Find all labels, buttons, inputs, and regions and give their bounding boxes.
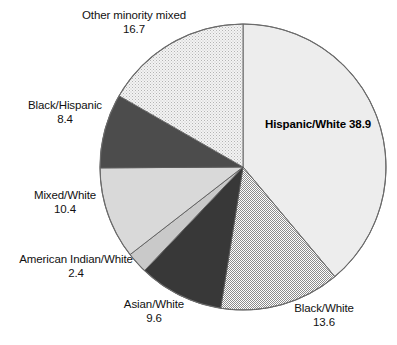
pie-chart-canvas: [0, 0, 397, 345]
pie-chart-figure: Hispanic/White 38.9 Black/White 13.6 Asi…: [0, 0, 397, 345]
slice-label-american-indian-white-text: American Indian/White: [2, 252, 150, 266]
slice-value-asian-white: 9.6: [96, 311, 212, 325]
slice-label-black-white-text: Black/White: [268, 301, 380, 315]
slice-value-mixed-white: 10.4: [6, 202, 124, 216]
slice-label-other-minority-mixed-text: Other minority mixed: [60, 8, 208, 22]
slice-label-asian-white-text: Asian/White: [96, 297, 212, 311]
slice-value-black-white: 13.6: [268, 315, 380, 329]
slice-label-black-white: Black/White 13.6: [268, 301, 380, 330]
slice-label-black-hispanic: Black/Hispanic 8.4: [6, 98, 124, 127]
slice-value-black-hispanic: 8.4: [6, 112, 124, 126]
slice-label-other-minority-mixed: Other minority mixed 16.7: [60, 8, 208, 37]
slice-value-hispanic-white: 38.9: [349, 118, 371, 130]
slice-label-hispanic-white: Hispanic/White 38.9: [262, 117, 374, 131]
slice-label-black-hispanic-text: Black/Hispanic: [6, 98, 124, 112]
slice-value-american-indian-white: 2.4: [2, 266, 150, 280]
slice-label-mixed-white: Mixed/White 10.4: [6, 188, 124, 217]
slice-label-american-indian-white: American Indian/White 2.4: [2, 252, 150, 281]
slice-label-mixed-white-text: Mixed/White: [6, 188, 124, 202]
slice-label-asian-white: Asian/White 9.6: [96, 297, 212, 326]
slice-label-hispanic-white-text: Hispanic/White: [265, 118, 346, 130]
slice-value-other-minority-mixed: 16.7: [60, 22, 208, 36]
